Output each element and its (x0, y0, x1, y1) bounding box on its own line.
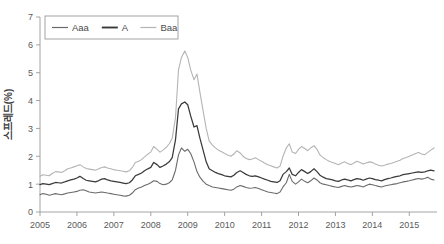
series-line-baa (40, 51, 434, 176)
y-tick-label: 6 (28, 40, 33, 50)
x-tick-label: 2015 (399, 220, 419, 230)
y-axis-title: 스프레드(%) (2, 89, 14, 141)
x-tick-label: 2008 (141, 220, 161, 230)
y-tick-label: 2 (28, 152, 33, 162)
legend-label-baa: Baa (160, 22, 178, 33)
series-line-a (40, 102, 434, 185)
x-tick-label: 2007 (104, 220, 124, 230)
y-tick-label: 1 (28, 180, 33, 190)
legend-label-a: A (122, 22, 129, 33)
x-tick-label: 2012 (288, 220, 308, 230)
chart-canvas: 0123456720052006200720082009201020112012… (0, 0, 444, 244)
y-tick-label: 4 (28, 96, 33, 106)
x-tick-label: 2005 (30, 220, 50, 230)
x-tick-label: 2006 (67, 220, 87, 230)
legend-label-aaa: Aaa (72, 22, 90, 33)
x-tick-label: 2013 (325, 220, 345, 230)
y-tick-label: 3 (28, 124, 33, 134)
y-tick-label: 7 (28, 12, 33, 22)
x-tick-label: 2009 (178, 220, 198, 230)
spread-line-chart: 0123456720052006200720082009201020112012… (0, 0, 444, 244)
x-tick-label: 2011 (252, 220, 271, 230)
x-tick-label: 2010 (215, 220, 235, 230)
y-tick-label: 0 (28, 207, 33, 217)
y-tick-label: 5 (28, 68, 33, 78)
x-tick-label: 2014 (362, 220, 382, 230)
